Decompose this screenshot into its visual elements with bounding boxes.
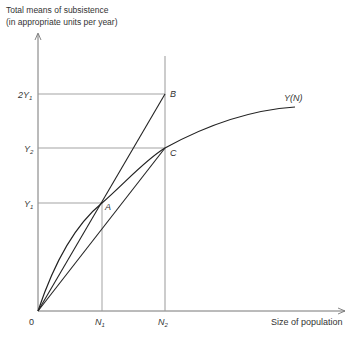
y-tick-2y1: 2Y1 (17, 90, 32, 101)
ray-oc (38, 148, 165, 311)
origin-label: 0 (29, 317, 34, 327)
x-axis-label: Size of population (271, 317, 343, 327)
point-a-label: A (104, 202, 111, 212)
y-tick-y2: Y2 (24, 144, 34, 155)
curve-label: Y(N) (284, 93, 303, 103)
x-tick-n2: N2 (158, 317, 169, 328)
point-b-label: B (170, 89, 176, 99)
y-tick-y1: Y1 (24, 199, 33, 210)
ray-ob (38, 94, 165, 311)
point-c-label: C (170, 148, 177, 158)
diagram: A B C Y(N) 2Y1 Y2 Y1 0 N1 N2 Size of pop… (0, 0, 357, 342)
x-tick-n1: N1 (95, 317, 105, 328)
curve-y-of-n (38, 107, 295, 311)
